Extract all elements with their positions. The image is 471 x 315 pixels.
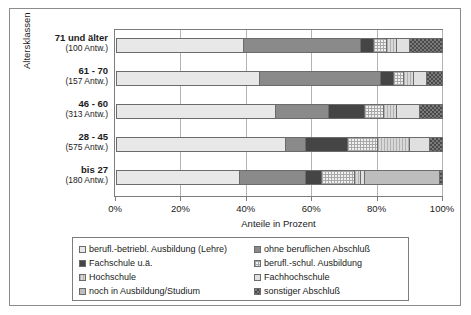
category-label: 46 - 60(313 Antw.) <box>12 98 108 120</box>
x-tick-label: 80% <box>357 203 397 214</box>
legend-label: noch in Ausbildung/Studium <box>89 286 200 296</box>
category-count: (575 Antw.) <box>12 142 108 153</box>
x-tick-mark <box>180 197 181 201</box>
legend: berufl.-betriebl. Ausbildung (Lehre)ohne… <box>72 237 409 301</box>
legend-swatch <box>79 274 86 281</box>
bar-segment <box>116 137 286 152</box>
bar-segment <box>387 38 397 53</box>
category-count: (100 Antw.) <box>12 43 108 54</box>
x-tick-mark <box>246 197 247 201</box>
bar-row <box>115 71 442 86</box>
chart-root: Altersklassen 71 und älter(100 Antw.)61 … <box>0 0 471 315</box>
legend-label: ohne beruflichen Abschluß <box>264 244 370 254</box>
bar-row <box>115 104 442 119</box>
legend-item[interactable]: berufl.-betriebl. Ausbildung (Lehre) <box>79 244 254 254</box>
category-count: (180 Antw.) <box>12 175 108 186</box>
bar-segment <box>410 38 443 53</box>
legend-swatch <box>254 260 261 267</box>
x-tick-mark <box>311 197 312 201</box>
x-tick-label: 0% <box>95 203 135 214</box>
x-tick-label: 60% <box>291 203 331 214</box>
legend-item[interactable]: ohne beruflichen Abschluß <box>254 244 414 254</box>
bar-segment <box>355 170 362 185</box>
bar-segment <box>427 71 443 86</box>
category-name: 28 - 45 <box>12 131 108 142</box>
legend-item[interactable]: Fachhochschule <box>254 272 414 282</box>
category-count: (157 Antw.) <box>12 76 108 87</box>
legend-swatch <box>79 288 86 295</box>
bar-segment <box>430 137 443 152</box>
legend-label: Fachschule u.ä. <box>89 258 153 268</box>
category-count: (313 Antw.) <box>12 109 108 120</box>
bar-segment <box>306 170 322 185</box>
legend-item[interactable]: noch in Ausbildung/Studium <box>79 286 254 296</box>
figure-frame: Altersklassen 71 und älter(100 Antw.)61 … <box>9 8 461 306</box>
bar-segment <box>397 38 410 53</box>
legend-item[interactable]: berufl.-schul. Ausbildung <box>254 258 414 268</box>
bar-segment <box>365 104 385 119</box>
category-name: 71 und älter <box>12 32 108 43</box>
bar-segment <box>440 170 443 185</box>
bar-segment <box>365 170 440 185</box>
legend-label: berufl.-betriebl. Ausbildung (Lehre) <box>89 244 227 254</box>
bar-segment <box>410 137 430 152</box>
bar-segment <box>361 38 374 53</box>
bar-segment <box>244 38 362 53</box>
legend-label: berufl.-schul. Ausbildung <box>264 258 362 268</box>
legend-swatch <box>254 274 261 281</box>
category-name: bis 27 <box>12 164 108 175</box>
bar-segment <box>404 71 414 86</box>
category-label: bis 27(180 Antw.) <box>12 164 108 186</box>
legend-swatch <box>79 246 86 253</box>
category-label: 71 und älter(100 Antw.) <box>12 32 108 54</box>
category-name: 61 - 70 <box>12 65 108 76</box>
legend-swatch <box>79 260 86 267</box>
bar-segment <box>306 137 349 152</box>
bar-segment <box>240 170 305 185</box>
x-tick-label: 100% <box>422 203 462 214</box>
legend-item[interactable]: sonstiger Abschluß <box>254 286 414 296</box>
bar-row <box>115 137 442 152</box>
bar-segment <box>286 137 306 152</box>
bar-segment <box>414 71 427 86</box>
bar-segment <box>420 104 443 119</box>
x-tick-label: 20% <box>160 203 200 214</box>
plot-area <box>114 29 443 197</box>
category-name: 46 - 60 <box>12 98 108 109</box>
legend-item[interactable]: Hochschule <box>79 272 254 282</box>
bar-row <box>115 170 442 185</box>
bar-segment <box>348 137 377 152</box>
bar-segment <box>381 71 394 86</box>
legend-label: Hochschule <box>89 272 136 282</box>
legend-label: Fachhochschule <box>264 272 330 282</box>
x-tick-mark <box>115 197 116 201</box>
x-tick-mark <box>377 197 378 201</box>
x-axis-title: Anteile in Prozent <box>114 218 443 229</box>
legend-grid: berufl.-betriebl. Ausbildung (Lehre)ohne… <box>79 242 408 298</box>
bar-segment <box>116 170 240 185</box>
bar-segment <box>378 137 411 152</box>
bar-segment <box>116 38 244 53</box>
bar-segment <box>384 104 397 119</box>
category-label: 61 - 70(157 Antw.) <box>12 65 108 87</box>
bar-segment <box>276 104 328 119</box>
legend-swatch <box>254 246 261 253</box>
x-tick-label: 40% <box>226 203 266 214</box>
bar-segment <box>329 104 365 119</box>
bar-segment <box>322 170 355 185</box>
legend-label: sonstiger Abschluß <box>264 286 340 296</box>
x-tick-mark <box>442 197 443 201</box>
bar-segment <box>394 71 404 86</box>
legend-item[interactable]: Fachschule u.ä. <box>79 258 254 268</box>
bar-segment <box>374 38 387 53</box>
bar-segment <box>397 104 420 119</box>
category-label: 28 - 45(575 Antw.) <box>12 131 108 153</box>
bar-row <box>115 38 442 53</box>
bar-segment <box>116 71 260 86</box>
bar-segment <box>260 71 381 86</box>
legend-swatch <box>254 288 261 295</box>
bar-segment <box>116 104 276 119</box>
